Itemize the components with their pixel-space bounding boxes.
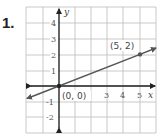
plotted-line — [140, 48, 156, 54]
y-axis-label: y — [63, 7, 70, 17]
y-tick-4: 4 — [51, 19, 56, 28]
coordinate-plane: 4 3 2 1 -1 -2 3 4 5 y x (0, 0) (5, 2) — [0, 0, 162, 138]
y-tick-2: 2 — [51, 51, 56, 60]
point-origin — [57, 84, 61, 88]
y-tick-1: 1 — [51, 67, 56, 76]
point-5-2-label: (5, 2) — [110, 41, 134, 51]
y-tick-neg2: -2 — [46, 113, 54, 122]
point-origin-label: (0, 0) — [62, 91, 86, 101]
x-axis-label: x — [148, 90, 153, 100]
x-tick-3: 3 — [104, 91, 109, 100]
x-tick-4: 4 — [120, 91, 125, 100]
x-tick-5: 5 — [137, 91, 142, 100]
y-tick-3: 3 — [51, 35, 56, 44]
y-tick-neg1: -1 — [46, 98, 54, 107]
point-5-2 — [138, 52, 142, 56]
